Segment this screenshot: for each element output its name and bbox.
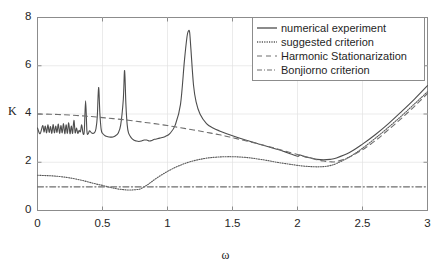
y-tick-label: 8 <box>6 10 32 22</box>
legend-label-2: Harmonic Stationarization <box>281 50 407 63</box>
x-tick-label: 3 <box>408 217 445 229</box>
y-tick-label: 2 <box>6 154 32 166</box>
y-tick-label: 0 <box>6 203 32 215</box>
x-tick-label: 2 <box>278 217 318 229</box>
legend-item-suggested-criterion: suggested criterion <box>256 35 420 49</box>
legend-swatch-solid-icon <box>256 22 278 34</box>
legend-item-bonjiorno-criterion: Bonjiorno criterion <box>256 63 420 77</box>
y-tick-label: 6 <box>6 58 32 70</box>
legend-item-numerical-experiment: numerical experiment <box>256 21 420 35</box>
legend-label-1: suggested criterion <box>281 36 374 49</box>
x-tick-label: 1.5 <box>213 217 253 229</box>
y-tick-label: 4 <box>6 106 32 118</box>
x-axis-label-text: ω <box>222 248 230 262</box>
legend-item-harmonic-stationarization: Harmonic Stationarization <box>256 49 420 63</box>
x-tick-label: 0.5 <box>83 217 123 229</box>
chart-legend: numerical experiment suggested criterion… <box>252 17 425 81</box>
legend-label-3: Bonjiorno criterion <box>281 64 370 77</box>
legend-swatch-dashed-icon <box>256 50 278 62</box>
chart-figure: K ω 02468 00.511.522.53 numerical experi… <box>0 0 445 273</box>
x-axis-label: ω <box>0 248 445 263</box>
x-tick-label: 2.5 <box>343 217 383 229</box>
legend-label-0: numerical experiment <box>281 22 386 35</box>
legend-swatch-dotted-icon <box>256 36 278 48</box>
x-tick-label: 0 <box>18 217 58 229</box>
x-tick-label: 1 <box>148 217 188 229</box>
legend-swatch-dashdot-icon <box>256 64 278 76</box>
